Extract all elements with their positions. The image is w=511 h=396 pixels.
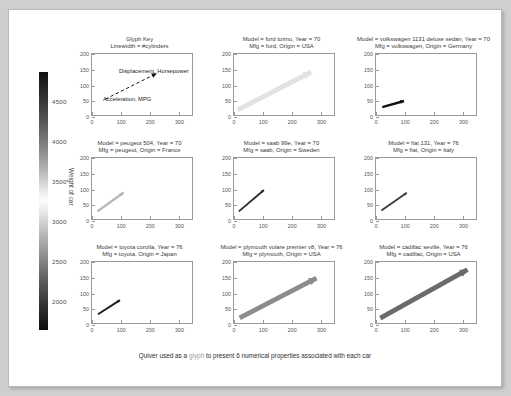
glyph-key-tail-label: Acceleration, MPG (103, 96, 151, 102)
y-tick-label: 200 (349, 155, 373, 161)
figure-caption: Quiver used as a glyph to present 6 nume… (9, 352, 501, 359)
y-tick-mark (92, 262, 95, 263)
x-tick-label: 300 (317, 223, 326, 229)
plot-axes: 0501001502000100200300 (91, 261, 193, 324)
car-quiver-arrow (376, 54, 476, 115)
x-tick-mark (234, 112, 235, 115)
y-tick-mark (234, 101, 237, 102)
y-tick-mark (234, 278, 237, 279)
y-tick-label: 0 (207, 114, 231, 120)
y-tick-label: 200 (207, 155, 231, 161)
x-tick-mark (179, 216, 180, 219)
x-tick-mark (234, 216, 235, 219)
x-tick-mark (150, 112, 151, 115)
y-tick-label: 200 (349, 259, 373, 265)
x-tick-mark (92, 112, 93, 115)
y-tick-label: 150 (65, 67, 89, 73)
car-panel-fiat: Model = fiat 131, Year = 76Mfg = fiat, O… (353, 140, 494, 243)
x-tick-mark (121, 112, 122, 115)
x-tick-label: 300 (317, 119, 326, 125)
x-tick-label: 200 (288, 223, 297, 229)
y-tick-label: 50 (207, 98, 231, 104)
x-tick-mark (405, 216, 406, 219)
panel-title-line1: Model = peugeot 504, Year = 70 (69, 140, 210, 147)
x-tick-label: 300 (175, 119, 184, 125)
panel-title-line1: Model = saab 99e, Year = 70 (211, 140, 352, 147)
y-tick-label: 200 (349, 51, 373, 57)
y-tick-mark (376, 86, 379, 87)
panel-title-line2: Mfg = plymouth, Origin = USA (211, 251, 352, 258)
y-tick-mark (234, 86, 237, 87)
x-tick-mark (150, 216, 151, 219)
x-tick-label: 200 (146, 327, 155, 333)
y-tick-label: 0 (207, 322, 231, 328)
y-tick-mark (234, 190, 237, 191)
y-tick-label: 0 (349, 322, 373, 328)
y-tick-mark (376, 309, 379, 310)
car-panel-cadillac: Model = cadillac seville, Year = 76Mfg =… (353, 244, 494, 347)
y-tick-label: 200 (207, 259, 231, 265)
x-tick-label: 0 (91, 327, 94, 333)
y-tick-mark (92, 54, 95, 55)
car-panel-volkswagen: Model = volkswagen 1131 deluxe sedan, Ye… (353, 36, 494, 139)
y-tick-mark (92, 158, 95, 159)
y-tick-mark (376, 278, 379, 279)
caption-before: Quiver used as a (139, 352, 189, 359)
x-tick-label: 200 (430, 223, 439, 229)
y-tick-mark (376, 101, 379, 102)
x-tick-label: 300 (175, 223, 184, 229)
x-tick-mark (234, 320, 235, 323)
y-tick-label: 0 (349, 218, 373, 224)
y-tick-label: 50 (65, 306, 89, 312)
colorbar-tick-4000: 4000 (52, 138, 67, 145)
x-tick-mark (405, 112, 406, 115)
glyph-key-arrow (92, 54, 192, 115)
y-tick-label: 100 (349, 291, 373, 297)
panel-title-line2: Mfg = ford, Origin = USA (211, 43, 352, 50)
y-tick-label: 100 (65, 83, 89, 89)
y-tick-mark (234, 158, 237, 159)
x-tick-mark (179, 320, 180, 323)
y-tick-label: 0 (349, 114, 373, 120)
y-tick-mark (234, 117, 237, 118)
panel-title-line2: Mfg = fiat, Origin = Italy (353, 147, 494, 154)
x-tick-mark (376, 112, 377, 115)
y-tick-label: 0 (65, 114, 89, 120)
car-quiver-arrow (234, 262, 334, 323)
panel-title-line2: Linewidth = #cylinders (69, 43, 210, 50)
x-tick-label: 100 (117, 327, 126, 333)
caption-glyph-word: glyph (189, 352, 204, 359)
y-tick-mark (376, 70, 379, 71)
panel-title-line2: Mfg = toyota, Origin = Japan (69, 251, 210, 258)
colorbar-tick-3500: 3500 (52, 178, 67, 185)
colorbar-gradient (39, 72, 48, 330)
figure-page: 4500 4000 3500 3000 2500 2000 Weight of … (8, 9, 502, 387)
panel-title: Model = ford torino, Year = 70Mfg = ford… (211, 36, 352, 51)
y-tick-mark (92, 221, 95, 222)
plot-axes: 0501001502000100200300Acceleration, MPGD… (91, 53, 193, 116)
x-tick-mark (434, 112, 435, 115)
y-tick-mark (92, 309, 95, 310)
y-tick-label: 150 (207, 171, 231, 177)
panel-title-line1: Model = plymouth volare premier v8, Year… (211, 244, 352, 251)
x-tick-label: 200 (288, 119, 297, 125)
y-tick-label: 50 (207, 306, 231, 312)
y-tick-label: 50 (65, 202, 89, 208)
y-tick-mark (376, 205, 379, 206)
x-tick-label: 100 (401, 119, 410, 125)
y-tick-mark (376, 174, 379, 175)
car-quiver-arrow (376, 158, 476, 219)
y-tick-label: 100 (65, 187, 89, 193)
plot-axes: 0501001502000100200300 (233, 157, 335, 220)
x-tick-label: 300 (459, 223, 468, 229)
glyph-key-panel: Glyph KeyLinewidth = #cylinders050100150… (69, 36, 210, 139)
colorbar-tick-2000: 2000 (52, 298, 67, 305)
y-tick-label: 150 (65, 275, 89, 281)
x-tick-label: 0 (233, 223, 236, 229)
x-tick-label: 100 (401, 327, 410, 333)
car-panel-saab: Model = saab 99e, Year = 70Mfg = saab, O… (211, 140, 352, 243)
x-tick-label: 100 (259, 223, 268, 229)
y-tick-mark (92, 86, 95, 87)
x-tick-label: 300 (317, 327, 326, 333)
x-tick-mark (92, 216, 93, 219)
